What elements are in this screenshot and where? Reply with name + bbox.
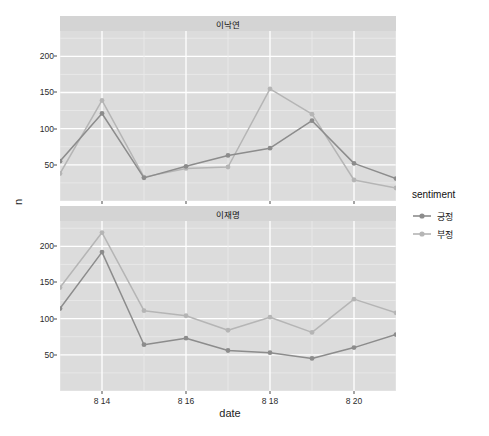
x-tick-mark bbox=[354, 201, 355, 204]
y-tick-label: 50 bbox=[26, 350, 54, 360]
y-axis-ticks-bottom: 50100150200 bbox=[22, 221, 54, 391]
plot-area-bottom bbox=[60, 221, 396, 391]
x-axis-title: date bbox=[60, 407, 400, 419]
legend-key-icon bbox=[412, 209, 432, 223]
plot-svg-bottom bbox=[60, 221, 396, 391]
facet-panel-bottom: 이재명 bbox=[60, 206, 396, 391]
legend-items: 긍정부정 bbox=[412, 207, 486, 243]
y-tick-label: 100 bbox=[26, 124, 54, 134]
x-tick-label: 8 18 bbox=[262, 396, 279, 406]
legend-label: 긍정 bbox=[437, 210, 453, 223]
facet-strip-label-top: 이낙연 bbox=[60, 16, 396, 31]
legend-title: sentiment bbox=[412, 189, 486, 200]
x-tick-mark bbox=[102, 391, 103, 394]
legend-label: 부정 bbox=[437, 228, 453, 241]
x-tick-mark bbox=[186, 391, 187, 394]
x-tick-mark bbox=[354, 391, 355, 394]
y-tick-label: 150 bbox=[26, 87, 54, 97]
plot-svg-top bbox=[60, 31, 396, 201]
y-axis-ticks-top: 50100150200 bbox=[22, 31, 54, 201]
y-tick-mark bbox=[54, 164, 57, 165]
y-tick-label: 150 bbox=[26, 277, 54, 287]
legend: sentiment 긍정부정 bbox=[412, 189, 486, 243]
x-tick-mark bbox=[270, 391, 271, 394]
x-tick-label: 8 14 bbox=[94, 396, 111, 406]
y-tick-label: 50 bbox=[26, 160, 54, 170]
y-tick-label: 100 bbox=[26, 314, 54, 324]
y-tick-mark bbox=[54, 246, 57, 247]
chart-container: n 이낙연 50100150200 8 148 168 188 20 이재명 5… bbox=[0, 0, 489, 436]
y-tick-label: 200 bbox=[26, 241, 54, 251]
y-tick-mark bbox=[54, 282, 57, 283]
facet-strip-label-bottom: 이재명 bbox=[60, 206, 396, 221]
legend-item-0[interactable]: 긍정 bbox=[412, 207, 486, 225]
y-tick-mark bbox=[54, 92, 57, 93]
y-tick-mark bbox=[54, 354, 57, 355]
x-tick-label: 8 16 bbox=[178, 396, 195, 406]
legend-key-icon bbox=[412, 227, 432, 241]
plot-area-top bbox=[60, 31, 396, 201]
legend-item-1[interactable]: 부정 bbox=[412, 225, 486, 243]
facet-panel-top: 이낙연 bbox=[60, 16, 396, 201]
x-axis-ticks-bottom: 8 148 168 188 20 bbox=[60, 391, 396, 407]
y-tick-mark bbox=[54, 56, 57, 57]
x-tick-mark bbox=[102, 201, 103, 204]
x-tick-label: 8 20 bbox=[346, 396, 363, 406]
x-tick-mark bbox=[270, 201, 271, 204]
y-tick-mark bbox=[54, 318, 57, 319]
y-tick-mark bbox=[54, 128, 57, 129]
x-tick-mark bbox=[186, 201, 187, 204]
y-tick-label: 200 bbox=[26, 51, 54, 61]
